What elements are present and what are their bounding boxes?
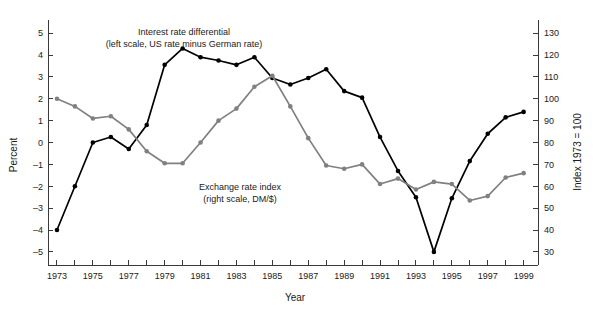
x-tick-label: 1997	[478, 271, 498, 281]
axes-group	[48, 20, 538, 265]
left-tick-label: 0	[38, 138, 43, 148]
data-point-marker	[198, 55, 203, 60]
left-axis-ticks: –5–4–3–2–1012345	[33, 28, 53, 257]
series-layer	[55, 46, 526, 254]
series-2	[55, 73, 526, 202]
data-point-marker	[503, 115, 508, 120]
x-tick-label: 1985	[262, 271, 282, 281]
x-tick-label: 1979	[155, 271, 175, 281]
data-point-marker	[342, 166, 347, 171]
interest-rate-annotation-line2: (left scale, US rate minus German rate)	[106, 39, 263, 49]
data-point-marker	[521, 171, 526, 176]
data-point-marker	[521, 110, 526, 115]
data-point-marker	[162, 161, 167, 166]
left-tick-label: 1	[38, 116, 43, 126]
data-point-marker	[234, 63, 239, 68]
data-point-marker	[414, 195, 419, 200]
left-tick-label: –1	[33, 160, 43, 170]
data-point-marker	[216, 58, 221, 63]
data-point-marker	[503, 175, 508, 180]
data-point-marker	[432, 250, 437, 255]
left-tick-label: –4	[33, 225, 43, 235]
data-point-marker	[144, 123, 149, 128]
left-tick-label: 5	[38, 28, 43, 38]
data-point-marker	[324, 67, 329, 72]
left-tick-label: –3	[33, 203, 43, 213]
series-line	[57, 76, 524, 201]
data-point-marker	[414, 187, 419, 192]
x-tick-label: 1999	[514, 271, 534, 281]
data-point-marker	[252, 55, 257, 60]
x-tick-label: 1975	[83, 271, 103, 281]
x-tick-label: 1989	[334, 271, 354, 281]
interest-rate-annotation-line1: Interest rate differential	[138, 27, 230, 37]
data-point-marker	[198, 140, 203, 145]
data-point-marker	[162, 63, 167, 68]
right-tick-label: 120	[544, 50, 559, 60]
data-point-marker	[234, 106, 239, 111]
data-point-marker	[306, 76, 311, 81]
data-point-marker	[73, 184, 78, 189]
data-point-marker	[126, 127, 131, 132]
right-tick-label: 100	[544, 94, 559, 104]
data-point-marker	[252, 84, 257, 89]
data-point-marker	[109, 114, 114, 119]
x-tick-label: 1977	[119, 271, 139, 281]
data-point-marker	[55, 228, 60, 233]
data-point-marker	[396, 169, 401, 174]
right-tick-label: 80	[544, 138, 554, 148]
data-point-marker	[467, 198, 472, 203]
left-tick-label: –5	[33, 247, 43, 257]
right-tick-label: 70	[544, 160, 554, 170]
x-tick-label: 1991	[370, 271, 390, 281]
exchange-rate-annotation: Exchange rate index (right scale, DM/$)	[199, 182, 282, 204]
x-tick-label: 1983	[226, 271, 246, 281]
x-tick-label: 1973	[47, 271, 67, 281]
line-chart-canvas: –5–4–3–2–1012345 30405060708090100110120…	[0, 0, 595, 309]
right-tick-label: 60	[544, 182, 554, 192]
data-point-marker	[216, 118, 221, 123]
x-tick-label: 1993	[406, 271, 426, 281]
right-tick-label: 40	[544, 225, 554, 235]
data-point-marker	[432, 180, 437, 185]
x-tick-label: 1981	[191, 271, 211, 281]
right-tick-label: 110	[544, 72, 558, 82]
data-point-marker	[55, 96, 60, 101]
interest-rate-annotation: Interest rate differential (left scale, …	[106, 27, 263, 49]
right-tick-label: 50	[544, 203, 554, 213]
data-point-marker	[378, 182, 383, 187]
chart-figure: –5–4–3–2–1012345 30405060708090100110120…	[0, 0, 595, 309]
x-axis-title: Year	[285, 292, 306, 303]
data-point-marker	[288, 82, 293, 87]
right-tick-label: 30	[544, 247, 554, 257]
data-point-marker	[378, 135, 383, 140]
data-point-marker	[450, 182, 455, 187]
data-point-marker	[109, 135, 114, 140]
data-point-marker	[467, 159, 472, 164]
data-point-marker	[342, 89, 347, 94]
left-axis-title: Percent	[8, 138, 19, 173]
series-1	[55, 46, 526, 254]
data-point-marker	[306, 136, 311, 141]
data-point-marker	[144, 149, 149, 154]
data-point-marker	[360, 162, 365, 167]
right-tick-label: 130	[544, 28, 559, 38]
x-tick-label: 1987	[298, 271, 318, 281]
data-point-marker	[270, 73, 275, 78]
right-axis-ticks: 30405060708090100110120130	[533, 28, 559, 257]
data-point-marker	[126, 147, 131, 152]
data-point-marker	[360, 95, 365, 100]
data-point-marker	[324, 163, 329, 168]
data-point-marker	[180, 161, 185, 166]
data-point-marker	[396, 176, 401, 181]
data-point-marker	[485, 194, 490, 199]
data-point-marker	[91, 116, 96, 121]
x-tick-label: 1995	[442, 271, 462, 281]
left-tick-label: 4	[38, 50, 43, 60]
x-axis-ticks: 1973197519771979198119831985198719891991…	[47, 260, 534, 281]
data-point-marker	[288, 104, 293, 109]
left-tick-label: 2	[38, 94, 43, 104]
data-point-marker	[485, 131, 490, 136]
exchange-rate-annotation-line1: Exchange rate index	[199, 182, 282, 192]
left-tick-label: –2	[33, 182, 43, 192]
